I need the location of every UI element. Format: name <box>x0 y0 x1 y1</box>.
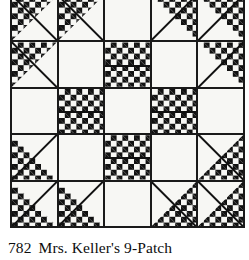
quilt-cell-r1-c3 <box>105 0 150 40</box>
quilt-cell-r2-c2 <box>59 42 104 86</box>
patch-diagonal-seam <box>152 111 197 113</box>
quilt-cell-r4-c5 <box>198 135 243 179</box>
patch-diagonal-seam <box>59 111 104 113</box>
figure-caption: 782 Mrs. Keller's 9-Patch <box>8 236 248 258</box>
quilt-cell-r2-c5 <box>198 42 243 86</box>
quilt-cell-r4-c2 <box>59 135 104 179</box>
quilt-cell-r1-c5 <box>198 0 243 40</box>
quilt-cell-r4-c3 <box>105 135 150 179</box>
quilt-cell-r2-c3 <box>105 42 150 86</box>
page-root: 782 Mrs. Keller's 9-Patch <box>0 0 249 260</box>
quilt-cell-r5-c2 <box>59 182 104 226</box>
caption-title: Mrs. Keller's 9-Patch <box>39 238 173 257</box>
quilt-cell-r3-c5 <box>198 89 243 133</box>
quilt-cell-r5-c3 <box>105 182 150 226</box>
quilt-cell-r3-c2 <box>59 89 104 133</box>
quilt-cell-r2-c1 <box>12 42 57 86</box>
quilt-cell-r3-c1 <box>12 89 57 133</box>
quilt-cell-r3-c4 <box>152 89 197 133</box>
quilt-cell-r1-c1 <box>12 0 57 40</box>
quilt-cell-r1-c4 <box>152 0 197 40</box>
quilt-cell-r2-c4 <box>152 42 197 86</box>
caption-number: 782 <box>8 238 32 257</box>
quilt-cell-r3-c3 <box>105 89 150 133</box>
quilt-cell-r5-c5 <box>198 182 243 226</box>
quilt-block-diagram <box>10 0 245 228</box>
quilt-cell-r4-c1 <box>12 135 57 179</box>
quilt-cell-r5-c1 <box>12 182 57 226</box>
patch-diagonal-seam <box>105 157 150 159</box>
quilt-cell-r5-c4 <box>152 182 197 226</box>
patch-diagonal-seam <box>105 65 150 67</box>
quilt-cell-r4-c4 <box>152 135 197 179</box>
quilt-cell-r1-c2 <box>59 0 104 40</box>
